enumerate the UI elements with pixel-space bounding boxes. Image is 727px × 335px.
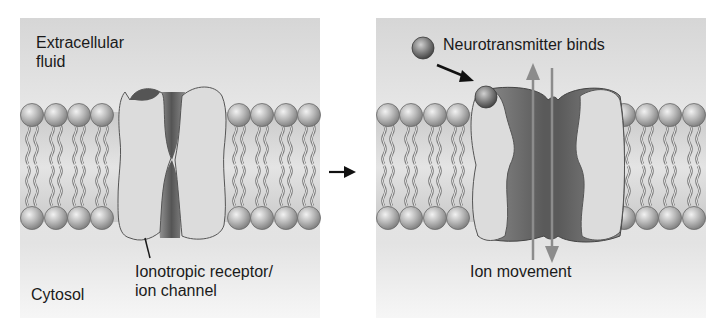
ion-movement-label: Ion movement	[470, 262, 571, 281]
ligand-label-text: Neurotransmitter binds	[443, 35, 605, 54]
ion-channel-closed	[118, 87, 226, 240]
extracellular-fluid-label: Extracellular fluid	[36, 33, 124, 71]
cytosol-label: Cytosol	[31, 285, 84, 304]
receptor-label-line2: ion channel	[135, 281, 273, 300]
ionotropic-receptor-label: Ionotropic receptor/ ion channel	[135, 262, 273, 300]
neurotransmitter-bound-icon	[475, 86, 497, 108]
ion-flow-label-text: Ion movement	[470, 262, 571, 281]
extracellular-label-line1: Extracellular	[36, 33, 124, 52]
extracellular-label-line2: fluid	[36, 52, 124, 71]
neurotransmitter-free-icon	[412, 37, 434, 59]
cytosol-label-text: Cytosol	[31, 285, 84, 304]
ion-channel-open	[471, 87, 625, 242]
neurotransmitter-binds-label: Neurotransmitter binds	[443, 35, 605, 54]
transition-arrow-icon	[329, 166, 356, 178]
receptor-label-line1: Ionotropic receptor/	[135, 262, 273, 281]
